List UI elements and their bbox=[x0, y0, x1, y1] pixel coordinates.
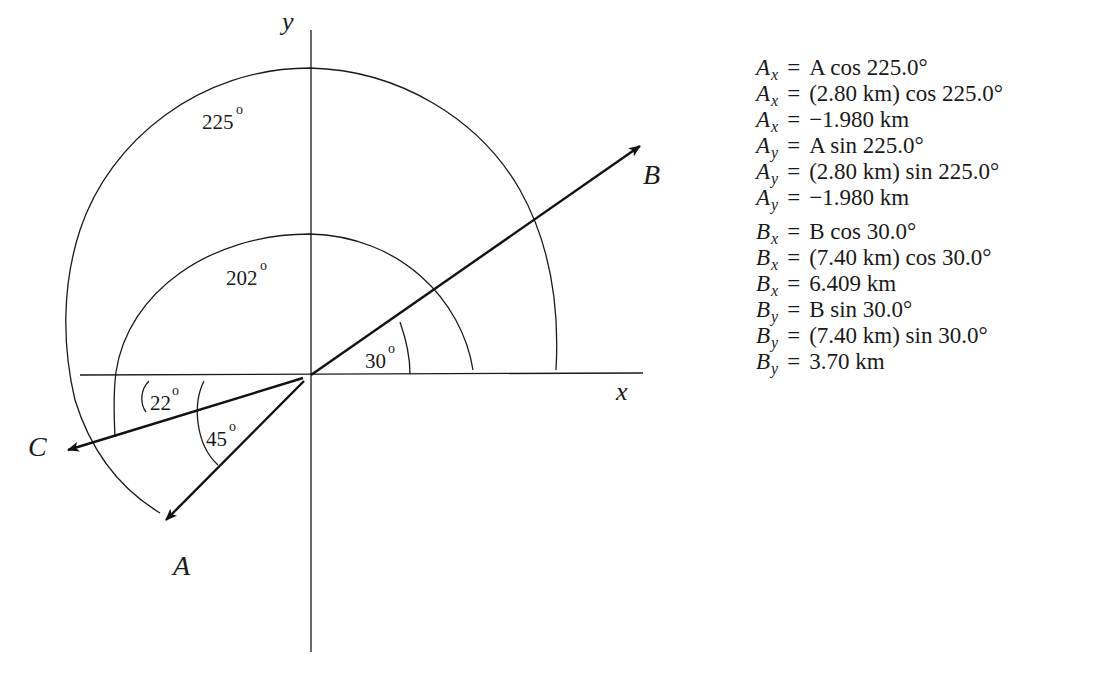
eq-variable: A bbox=[756, 81, 770, 106]
svg-text:o: o bbox=[236, 102, 243, 117]
eq-variable: A bbox=[756, 185, 770, 210]
eq-rhs: (7.40 km) cos 30.0° bbox=[809, 245, 991, 270]
vector-b-label: B bbox=[643, 159, 660, 190]
equation-line: Bx=(7.40 km) cos 30.0° bbox=[756, 245, 1101, 271]
eq-equals: = bbox=[787, 159, 800, 184]
eq-equals: = bbox=[787, 323, 800, 348]
eq-equals: = bbox=[787, 81, 800, 106]
svg-text:o: o bbox=[229, 419, 236, 434]
eq-variable: B bbox=[756, 323, 770, 348]
a-components-group: Ax=A cos 225.0° Ax=(2.80 km) cos 225.0° … bbox=[756, 55, 1101, 211]
vector-a bbox=[166, 381, 304, 520]
eq-equals: = bbox=[787, 297, 800, 322]
eq-rhs: −1.980 km bbox=[809, 185, 909, 210]
vector-b bbox=[311, 146, 640, 375]
equation-line: Ay=A sin 225.0° bbox=[756, 133, 1101, 159]
eq-rhs: B cos 30.0° bbox=[809, 219, 916, 244]
eq-variable: B bbox=[756, 297, 770, 322]
svg-text:o: o bbox=[172, 383, 179, 398]
eq-subscript: x bbox=[771, 230, 778, 247]
eq-rhs: (2.80 km) sin 225.0° bbox=[809, 159, 999, 184]
equation-line: Ax=(2.80 km) cos 225.0° bbox=[756, 81, 1101, 107]
svg-text:45: 45 bbox=[206, 427, 227, 451]
eq-equals: = bbox=[787, 185, 800, 210]
eq-rhs: 6.409 km bbox=[809, 271, 896, 296]
angle-arc-45 bbox=[197, 381, 218, 465]
eq-variable: B bbox=[756, 271, 770, 296]
eq-equals: = bbox=[787, 349, 800, 374]
x-axis-label: x bbox=[615, 377, 628, 406]
eq-subscript: y bbox=[771, 308, 778, 325]
angle-arc-30 bbox=[400, 322, 410, 374]
eq-equals: = bbox=[787, 245, 800, 270]
vector-c-label: C bbox=[28, 431, 47, 462]
svg-text:202: 202 bbox=[226, 266, 258, 290]
eq-variable: B bbox=[756, 245, 770, 270]
eq-subscript: x bbox=[771, 282, 778, 299]
eq-rhs: B sin 30.0° bbox=[809, 297, 912, 322]
vector-diagram: x y B C A 225 o 202 o 30 o 22 o 45 o bbox=[0, 0, 720, 685]
equation-line: Bx=6.409 km bbox=[756, 271, 1101, 297]
equation-line: By=(7.40 km) sin 30.0° bbox=[756, 323, 1101, 349]
svg-text:22: 22 bbox=[150, 391, 171, 415]
angle-label-225: 225 o bbox=[202, 102, 243, 134]
vector-c bbox=[68, 378, 303, 450]
svg-text:o: o bbox=[388, 341, 395, 356]
equation-line: Ay=(2.80 km) sin 225.0° bbox=[756, 159, 1101, 185]
eq-variable: A bbox=[756, 107, 770, 132]
svg-text:o: o bbox=[260, 258, 267, 273]
equation-line: By=B sin 30.0° bbox=[756, 297, 1101, 323]
eq-equals: = bbox=[787, 55, 800, 80]
eq-variable: B bbox=[756, 219, 770, 244]
eq-rhs: (2.80 km) cos 225.0° bbox=[809, 81, 1003, 106]
eq-variable: A bbox=[756, 133, 770, 158]
angle-label-22: 22 o bbox=[150, 383, 179, 415]
eq-variable: B bbox=[756, 349, 770, 374]
eq-rhs: 3.70 km bbox=[809, 349, 884, 374]
eq-rhs: (7.40 km) sin 30.0° bbox=[809, 323, 988, 348]
b-components-group: Bx=B cos 30.0° Bx=(7.40 km) cos 30.0° Bx… bbox=[756, 219, 1101, 375]
angle-label-202: 202 o bbox=[226, 258, 267, 290]
eq-rhs: A cos 225.0° bbox=[809, 55, 927, 80]
eq-variable: A bbox=[756, 159, 770, 184]
component-equations: Ax=A cos 225.0° Ax=(2.80 km) cos 225.0° … bbox=[756, 55, 1101, 383]
equation-line: Bx=B cos 30.0° bbox=[756, 219, 1101, 245]
eq-equals: = bbox=[787, 271, 800, 296]
equation-line: Ax=A cos 225.0° bbox=[756, 55, 1101, 81]
y-axis-label: y bbox=[279, 7, 294, 36]
eq-subscript: y bbox=[771, 144, 778, 161]
angle-label-30: 30 o bbox=[365, 341, 395, 373]
eq-variable: A bbox=[756, 55, 770, 80]
eq-subscript: y bbox=[771, 196, 778, 213]
eq-rhs: A sin 225.0° bbox=[809, 133, 924, 158]
x-axis bbox=[80, 373, 643, 375]
equation-line: Ay=−1.980 km bbox=[756, 185, 1101, 211]
eq-subscript: y bbox=[771, 360, 778, 377]
svg-text:30: 30 bbox=[365, 349, 386, 373]
eq-subscript: y bbox=[771, 334, 778, 351]
equation-line: By=3.70 km bbox=[756, 349, 1101, 375]
angle-arc-22 bbox=[142, 381, 149, 412]
eq-equals: = bbox=[787, 107, 800, 132]
eq-rhs: −1.980 km bbox=[809, 107, 909, 132]
angle-label-45: 45 o bbox=[206, 419, 236, 451]
eq-subscript: y bbox=[771, 170, 778, 187]
eq-subscript: x bbox=[771, 92, 778, 109]
eq-equals: = bbox=[787, 133, 800, 158]
eq-subscript: x bbox=[771, 118, 778, 135]
eq-subscript: x bbox=[771, 66, 778, 83]
eq-subscript: x bbox=[771, 256, 778, 273]
svg-text:225: 225 bbox=[202, 110, 234, 134]
eq-equals: = bbox=[787, 219, 800, 244]
equation-line: Ax=−1.980 km bbox=[756, 107, 1101, 133]
vector-a-label: A bbox=[171, 550, 191, 581]
